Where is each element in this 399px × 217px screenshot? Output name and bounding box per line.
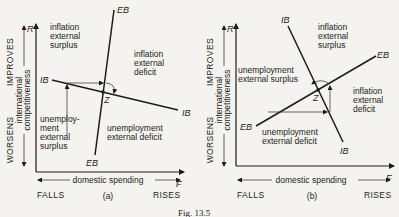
y-title-line2: competitiveness xyxy=(22,70,32,131)
ib-label-right: IB xyxy=(182,108,191,118)
equilibrium-label: Z xyxy=(312,93,319,103)
region-unemployment-external-deficit: unemployment external deficit xyxy=(107,123,163,142)
ib-label-top: IB xyxy=(281,15,290,25)
eb-label-bottom: EB xyxy=(86,158,98,168)
svg-text:external surplus: external surplus xyxy=(238,74,298,84)
svg-text:surplus: surplus xyxy=(318,40,345,50)
svg-text:deficit: deficit xyxy=(134,67,157,77)
ib-label-bottom: IB xyxy=(340,146,349,156)
x-rises-label: RISES xyxy=(364,190,392,200)
panel-b: IMPROVES WORSENS international competiti… xyxy=(205,15,394,201)
eb-label-top: EB xyxy=(117,5,129,15)
panel-label: (a) xyxy=(103,191,114,201)
x-falls-label: FALLS xyxy=(237,190,265,200)
x-axis-var: F xyxy=(176,179,182,189)
x-falls-label: FALLS xyxy=(37,190,65,200)
x-rises-label: RISES xyxy=(153,190,181,200)
eb-label-left: EB xyxy=(240,122,252,132)
svg-text:external deficit: external deficit xyxy=(107,132,162,142)
svg-text:surplus: surplus xyxy=(50,40,77,50)
panel-label: (b) xyxy=(307,191,318,201)
region-inflation-external-deficit: inflation external deficit xyxy=(353,86,383,114)
region-inflation-external-deficit: inflation external deficit xyxy=(134,49,164,77)
region-inflation-external-surplus: inflation external surplus xyxy=(318,22,348,50)
equilibrium-point xyxy=(316,88,320,92)
y-axis-var: R xyxy=(27,24,34,34)
region-unemployment-external-surplus: unemployment external surplus xyxy=(238,65,298,84)
y-axis-var: R xyxy=(227,24,234,34)
region-unemployment-external-surplus: unemploy- ment external surplus xyxy=(40,114,80,151)
svg-text:external deficit: external deficit xyxy=(262,136,317,146)
ib-label-left: IB xyxy=(40,75,49,85)
svg-text:deficit: deficit xyxy=(353,104,376,114)
region-inflation-external-surplus: inflation external surplus xyxy=(50,22,80,50)
x-axis-var: F xyxy=(386,173,392,183)
svg-text:surplus: surplus xyxy=(40,141,67,151)
region-unemployment-external-deficit: unemployment external deficit xyxy=(262,127,318,146)
x-axis-title: domestic spending xyxy=(276,175,347,185)
adjust-arrow-curve xyxy=(106,83,114,93)
equilibrium-label: Z xyxy=(103,95,110,105)
ib-curve xyxy=(52,80,178,110)
y-title-line2: competitiveness xyxy=(222,70,232,131)
x-axis-title: domestic spending xyxy=(73,175,144,185)
policy-assignment-diagram: IMPROVES WORSENS international competiti… xyxy=(0,0,399,217)
equilibrium-point xyxy=(101,90,105,94)
panel-a: IMPROVES WORSENS international competiti… xyxy=(5,5,191,201)
eb-label-right: EB xyxy=(377,50,389,60)
figure-caption: Fig. 13.5 xyxy=(178,208,211,217)
